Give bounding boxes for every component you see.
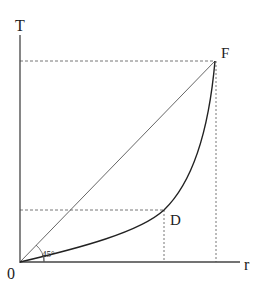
- diagram-canvas: T r 0 F D 45°: [0, 0, 265, 287]
- point-d-label: D: [170, 212, 181, 228]
- t-axis-label: T: [15, 17, 25, 34]
- angle-label: 45°: [42, 249, 55, 259]
- point-f-label: F: [221, 45, 229, 61]
- origin-label: 0: [7, 265, 15, 282]
- diagonal-line: [20, 61, 215, 262]
- r-axis-label: r: [244, 256, 250, 273]
